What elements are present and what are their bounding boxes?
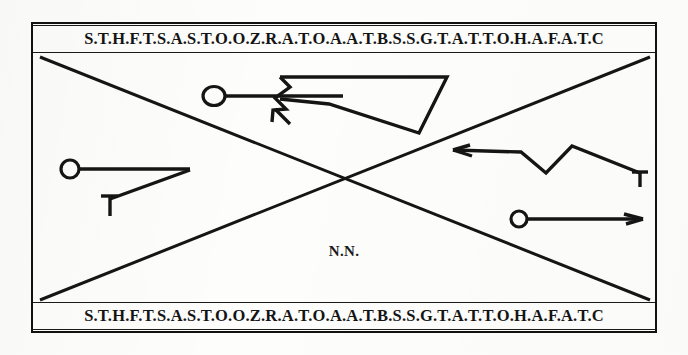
letter-band-top-text: S.T.H.F.T.S.A.S.T.O.O.Z.R.A.T.O.A.A.T.B.… [84, 31, 604, 48]
center-caption: N.N. [0, 243, 688, 260]
plate-frame [31, 22, 657, 333]
letter-band-top: S.T.H.F.T.S.A.S.T.O.O.Z.R.A.T.O.A.A.T.B.… [33, 25, 655, 53]
letter-band-bottom-text: S.T.H.F.T.S.A.S.T.O.O.Z.R.A.T.O.A.A.T.B.… [84, 308, 604, 325]
letter-band-bottom: S.T.H.F.T.S.A.S.T.O.O.Z.R.A.T.O.A.A.T.B.… [33, 302, 655, 330]
diagram-page: S.T.H.F.T.S.A.S.T.O.O.Z.R.A.T.O.A.A.T.B.… [0, 0, 688, 355]
